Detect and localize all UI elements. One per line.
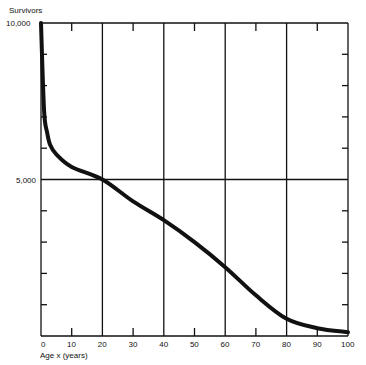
x-tick-label: 30 [129,340,138,349]
x-tick-label: 60 [221,340,230,349]
x-tick-label: 0 [41,340,45,349]
x-tick-label: 10 [67,340,76,349]
x-tick-label: 40 [159,340,168,349]
x-tick-label: 50 [190,340,199,349]
y-tick-5000: 5,000 [16,176,36,185]
y-axis-label: Survivors [9,6,42,15]
x-tick-label: 20 [98,340,107,349]
survivorship-chart [0,0,366,365]
survivorship-curve [41,23,348,332]
x-axis-label: Age x (years) [40,351,88,360]
x-tick-label: 90 [313,340,322,349]
x-tick-label: 100 [341,340,354,349]
x-tick-label: 70 [251,340,260,349]
x-tick-label: 80 [282,340,291,349]
y-tick-10000: 10,000 [6,19,30,28]
